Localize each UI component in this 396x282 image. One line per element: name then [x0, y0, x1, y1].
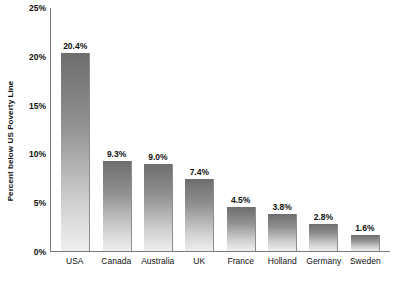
bar-value-label: 2.8% — [314, 212, 333, 222]
x-tick-label: Germany — [303, 256, 345, 276]
bar: 1.6% — [351, 235, 380, 251]
y-tick-label: 10% — [29, 149, 46, 159]
x-tick-label: USA — [54, 256, 96, 276]
bar-slot: 9.3% — [96, 8, 137, 251]
bar: 20.4% — [61, 53, 90, 251]
x-tick-label: Australia — [137, 256, 179, 276]
y-tick-label: 20% — [29, 52, 46, 62]
bar-slot: 20.4% — [55, 8, 96, 251]
y-tick-label: 0% — [34, 247, 46, 257]
bar: 2.8% — [309, 224, 338, 251]
bar-chart: Percent below US Poverty Line 0%5%10%15%… — [0, 0, 396, 282]
bar-value-label: 9.3% — [107, 149, 126, 159]
x-tick-label: Sweden — [345, 256, 387, 276]
y-tick-label: 15% — [29, 101, 46, 111]
plot-area: 20.4%9.3%9.0%7.4%4.5%3.8%2.8%1.6% — [50, 8, 390, 252]
bar-value-label: 4.5% — [231, 195, 250, 205]
x-tick-label: UK — [179, 256, 221, 276]
x-tick-label: Canada — [96, 256, 138, 276]
bar: 7.4% — [185, 179, 214, 251]
bar-value-label: 9.0% — [148, 152, 167, 162]
bar: 4.5% — [227, 207, 256, 251]
bar-value-label: 7.4% — [190, 167, 209, 177]
y-tick-label: 25% — [29, 3, 46, 13]
bar-slot: 7.4% — [179, 8, 220, 251]
x-tick-label: Holland — [262, 256, 304, 276]
y-tick-label: 5% — [34, 198, 46, 208]
x-tick-label: France — [220, 256, 262, 276]
bar-value-label: 1.6% — [355, 223, 374, 233]
y-axis-title: Percent below US Poverty Line — [0, 0, 20, 282]
bar-slot: 4.5% — [221, 8, 262, 251]
bar-series: 20.4%9.3%9.0%7.4%4.5%3.8%2.8%1.6% — [51, 8, 390, 251]
bar: 9.0% — [144, 164, 173, 251]
bar-slot: 2.8% — [303, 8, 344, 251]
bar-value-label: 20.4% — [63, 41, 87, 51]
bar-slot: 1.6% — [345, 8, 386, 251]
bar-slot: 3.8% — [262, 8, 303, 251]
bar: 3.8% — [268, 214, 297, 251]
x-axis-tick-labels: USACanadaAustraliaUKFranceHollandGermany… — [50, 256, 390, 276]
bar-value-label: 3.8% — [272, 202, 291, 212]
bar-slot: 9.0% — [138, 8, 179, 251]
bar: 9.3% — [103, 161, 132, 251]
y-axis-tick-labels: 0%5%10%15%20%25% — [22, 8, 48, 252]
